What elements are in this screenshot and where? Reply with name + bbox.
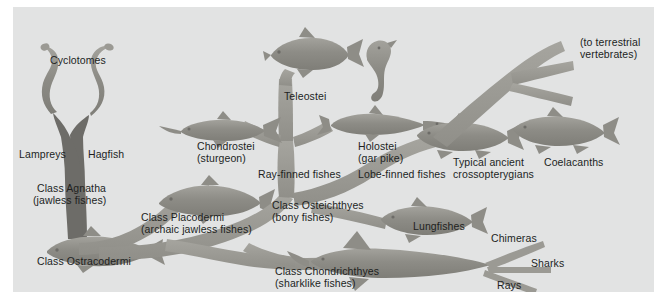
label-class-chondrichthyes: Class Chondrichthyes: [275, 266, 379, 278]
label-lobe-finned-fishes: Lobe-finned fishes: [358, 169, 446, 181]
label-rays: Rays: [497, 280, 521, 292]
label-lampreys: Lampreys: [19, 149, 66, 161]
label-coelacanths: Coelacanths: [544, 157, 603, 169]
label-class-osteichthyes-sub: (bony fishes): [272, 212, 333, 224]
label-chondrostei-sub: (sturgeon): [197, 153, 246, 165]
label-holostei: Holostei: [358, 141, 397, 153]
label-lungfishes: Lungfishes: [413, 221, 465, 233]
label-teleostei: Teleostei: [284, 91, 326, 103]
seahorse-silhouette: [366, 40, 397, 102]
branch-teleostei: [279, 69, 295, 86]
label-chimeras: Chimeras: [491, 233, 537, 245]
label-class-placodermi: Class Placodermi: [141, 212, 224, 224]
label-to-terrestrial-vertebrates: (to terrestrial: [580, 37, 640, 49]
label-class-placodermi-sub: (archaic jawless fishes): [141, 224, 252, 236]
label-to-terrestrial-vertebrates-sub: vertebrates): [580, 49, 637, 61]
label-typical-ancient-crossopterygians: Typical ancient: [453, 157, 524, 169]
figure-panel: Cyclotomes Lampreys Hagfish Class Agnath…: [13, 7, 654, 292]
label-hagfish: Hagfish: [88, 149, 124, 161]
label-ray-finned-fishes: Ray-finned fishes: [258, 169, 341, 181]
label-typical-ancient-crossopterygians-sub: crossopterygians: [453, 169, 534, 181]
teleostei-silhouette: [263, 27, 364, 78]
label-sharks: Sharks: [531, 258, 564, 270]
label-class-chondrichthyes-sub: (sharklike fishes): [275, 278, 356, 290]
label-class-ostracodermi: Class Ostracodermi: [37, 256, 131, 268]
coelacanth-silhouette: [513, 107, 620, 154]
trunk-agnatha: [53, 113, 89, 240]
label-holostei-sub: (gar pike): [358, 153, 403, 165]
label-cyclotomes: Cyclotomes: [50, 55, 106, 67]
label-class-agnatha: Class Agnatha: [37, 183, 106, 195]
label-chondrostei: Chondrostei: [197, 141, 255, 153]
label-class-osteichthyes: Class Osteichthyes: [272, 200, 364, 212]
label-class-agnatha-sub: (jawless fishes): [33, 195, 106, 207]
